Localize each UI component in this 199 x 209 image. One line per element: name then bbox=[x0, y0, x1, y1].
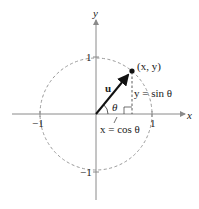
x-axis-label: x bbox=[186, 109, 192, 121]
point-label: (x, y) bbox=[137, 60, 161, 73]
angle-arc bbox=[104, 105, 108, 114]
y-axis-label: y bbox=[92, 7, 98, 19]
sin-label: y = sin θ bbox=[134, 87, 172, 99]
x-tick-label-pos: 1 bbox=[150, 117, 156, 129]
diagram-canvas: x y 1 −1 1 −1 (x, y) u θ y = sin θ x = c… bbox=[0, 0, 199, 209]
point-xy bbox=[129, 68, 134, 73]
angle-label: θ bbox=[112, 101, 118, 113]
unit-circle-figure: x y 1 −1 1 −1 (x, y) u θ y = sin θ x = c… bbox=[0, 0, 199, 209]
cos-label: x = cos θ bbox=[100, 123, 140, 135]
y-tick-label-neg: −1 bbox=[80, 166, 92, 178]
vector-label: u bbox=[105, 82, 111, 94]
right-angle-marker bbox=[124, 107, 132, 114]
x-tick-label-neg: −1 bbox=[32, 117, 44, 129]
y-tick-label-pos: 1 bbox=[86, 51, 92, 63]
